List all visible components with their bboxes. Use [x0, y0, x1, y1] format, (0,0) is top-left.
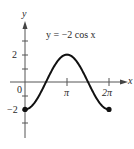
x-tick-label-pi: π: [64, 88, 69, 98]
y-axis-label: y: [22, 9, 26, 19]
x-axis-label: x: [128, 76, 132, 86]
origin-label: 0: [17, 85, 22, 95]
y-axis-arrow-icon: [23, 21, 28, 29]
y-tick-label-2: 2: [12, 50, 17, 60]
x-axis-arrow-icon: [120, 80, 128, 85]
endpoint-dot-right: [106, 107, 111, 112]
y-tick-label-neg2: −2: [7, 105, 18, 115]
function-plot: [0, 0, 134, 149]
equation-label: y = −2 cos x: [46, 30, 96, 40]
endpoint-dot-left: [22, 107, 27, 112]
x-tick-label-2pi: 2π: [102, 88, 112, 98]
